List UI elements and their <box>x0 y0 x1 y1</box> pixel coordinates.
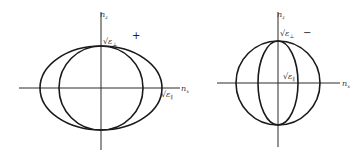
left-sqrt-eps-perp-label: √ε⊥ <box>103 37 117 47</box>
right-sqrt-eps-perp-label: √ε⊥ <box>280 29 294 39</box>
diagram-canvas: nz nx √ε⊥ + √ε∥ nz nx √ε⊥ − √ε∥ <box>0 0 364 157</box>
positive-crystal-diagram: nz nx √ε⊥ + √ε∥ <box>19 10 189 150</box>
left-nx-label: nx <box>181 84 189 94</box>
right-nz-label: nz <box>277 10 285 20</box>
negative-crystal-diagram: nz nx √ε⊥ − √ε∥ <box>217 10 350 147</box>
left-sqrt-eps-par-label: √ε∥ <box>161 90 173 100</box>
left-nz-label: nz <box>100 10 108 20</box>
right-sign-minus: − <box>303 27 311 38</box>
right-sqrt-eps-par-label: √ε∥ <box>283 72 295 82</box>
right-nx-label: nx <box>342 79 350 89</box>
left-sign-plus: + <box>132 30 140 41</box>
